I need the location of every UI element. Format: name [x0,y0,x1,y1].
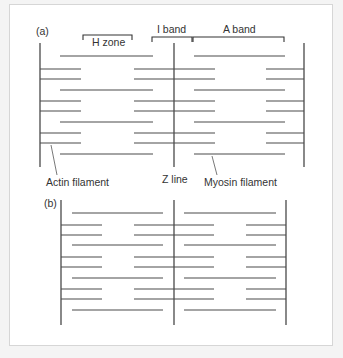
a-band-label: A band [223,23,256,35]
sarcomere-diagram: (a) (b) H zone I band A band Actin filam… [0,0,343,358]
i-band-label: I band [157,23,186,35]
h-zone-label: H zone [92,36,125,48]
myosin-leader-line [212,156,217,175]
actin-leader-line [51,145,57,175]
z-line-label: Z line [162,173,188,185]
i-band-bracket [152,37,192,42]
myosin-filament-label: Myosin filament [204,176,277,188]
panel-a-sarcomere [40,43,304,167]
panel-a-label: (a) [36,25,49,37]
panel-b-sarcomere [61,200,286,325]
a-band-bracket [193,37,284,42]
actin-filament-label: Actin filament [46,176,109,188]
panel-b-label: (b) [44,197,57,209]
